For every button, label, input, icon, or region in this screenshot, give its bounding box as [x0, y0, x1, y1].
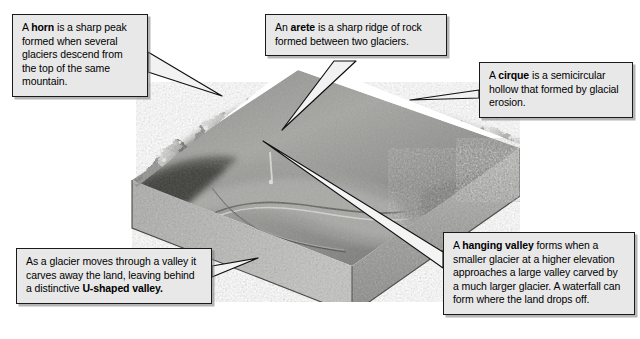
callout-cirque: A cirque is a semicircular hollow that f…: [479, 62, 633, 118]
callout-horn-text: A horn is a sharp peak formed when sever…: [22, 21, 139, 89]
callout-cirque-text: A cirque is a semicircular hollow that f…: [489, 69, 624, 110]
figure-canvas: A horn is a sharp peak formed when sever…: [0, 0, 640, 339]
callout-horn: A horn is a sharp peak formed when sever…: [12, 14, 148, 97]
callout-hanging-valley: A hanging valley forms when a smaller gl…: [443, 232, 635, 315]
callout-arete-text: An arete is a sharp ridge of rock formed…: [275, 21, 438, 48]
callout-hanging-valley-text: A hanging valley forms when a smaller gl…: [453, 239, 626, 307]
callout-u-shaped-valley-text: As a glacier moves through a valley it c…: [26, 255, 203, 296]
callout-u-shaped-valley: As a glacier moves through a valley it c…: [16, 248, 212, 304]
callout-arete: An arete is a sharp ridge of rock formed…: [265, 14, 447, 56]
